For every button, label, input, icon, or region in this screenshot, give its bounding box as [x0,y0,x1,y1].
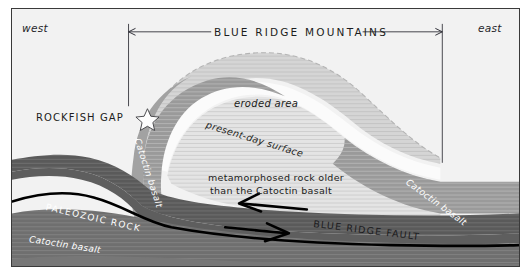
cross-section-drawing [12,9,519,266]
figure-canvas: west east BLUE RIDGE MOUNTAINS ROCKFISH … [0,0,532,276]
cross-section-frame: west east BLUE RIDGE MOUNTAINS ROCKFISH … [11,8,520,267]
